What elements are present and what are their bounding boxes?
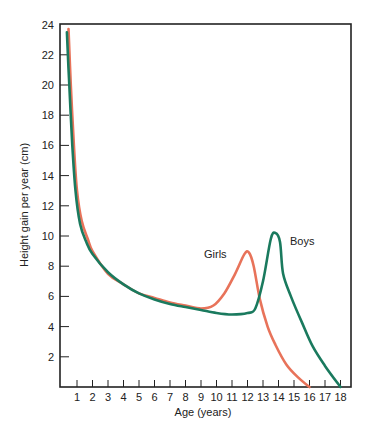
- y-tick-label: 12: [42, 200, 54, 212]
- y-tick-label: 14: [42, 170, 54, 182]
- x-tick-label: 3: [105, 391, 111, 403]
- series-lines: [67, 29, 341, 387]
- y-tick-label: 4: [48, 321, 54, 333]
- x-tick-label: 17: [319, 391, 331, 403]
- boys-growth-line: [67, 32, 341, 387]
- y-tick-label: 8: [48, 260, 54, 272]
- y-tick-label: 2: [48, 351, 54, 363]
- x-tick-label: 6: [151, 391, 157, 403]
- y-tick-label: 18: [42, 109, 54, 121]
- x-tick-label: 4: [120, 391, 126, 403]
- growth-velocity-chart: 24681012141618202224 1234567891011121314…: [0, 0, 369, 437]
- y-tick-label: 22: [42, 49, 54, 61]
- girls-growth-line: [69, 29, 310, 387]
- x-tick-label: 8: [182, 391, 188, 403]
- x-tick-label: 16: [303, 391, 315, 403]
- x-tick-label: 1: [74, 391, 80, 403]
- x-axis-title: Age (years): [175, 406, 232, 418]
- x-tick-label: 18: [334, 391, 346, 403]
- y-tick-label: 16: [42, 139, 54, 151]
- x-tick-label: 14: [272, 391, 284, 403]
- y-axis-title: Height gain per year (cm): [18, 143, 30, 267]
- y-tick-label: 10: [42, 230, 54, 242]
- girls-label: Girls: [204, 248, 227, 260]
- x-tick-label: 7: [167, 391, 173, 403]
- y-tick-label: 24: [42, 19, 54, 31]
- y-tick-label: 6: [48, 290, 54, 302]
- y-tick-label: 20: [42, 79, 54, 91]
- x-tick-label: 15: [288, 391, 300, 403]
- x-tick-label: 10: [210, 391, 222, 403]
- y-axis-ticks: 24681012141618202224: [42, 19, 69, 363]
- x-tick-label: 13: [257, 391, 269, 403]
- x-tick-label: 5: [136, 391, 142, 403]
- boys-label: Boys: [290, 235, 315, 247]
- x-tick-label: 12: [241, 391, 253, 403]
- x-tick-label: 2: [89, 391, 95, 403]
- x-tick-label: 9: [198, 391, 204, 403]
- x-tick-label: 11: [226, 391, 237, 403]
